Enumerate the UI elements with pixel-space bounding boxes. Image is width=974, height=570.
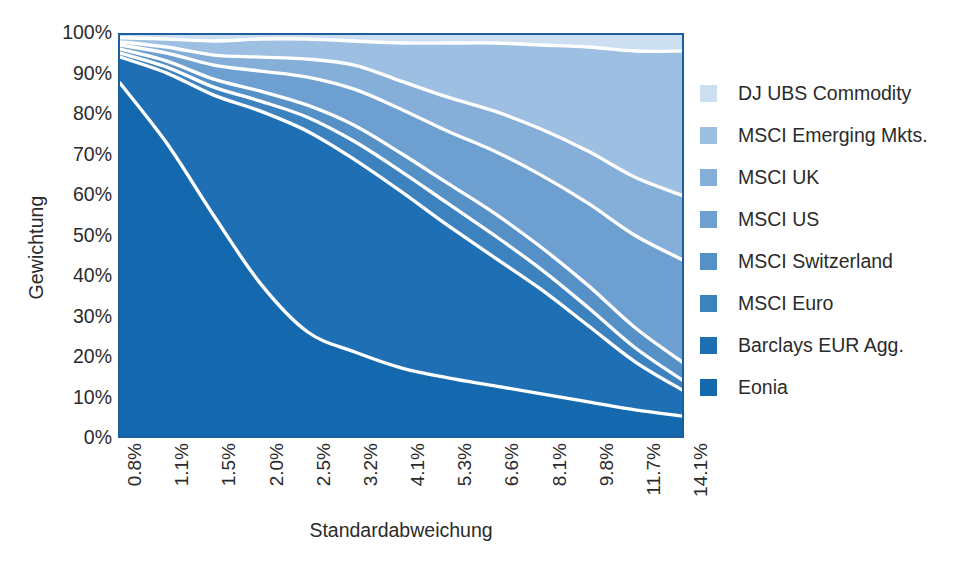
legend-swatch-icon (700, 337, 717, 354)
y-axis-tick-label: 40% (73, 266, 112, 286)
y-axis-tick-label: 90% (73, 64, 112, 84)
x-axis-tick-label: 2.5% (314, 443, 333, 486)
legend-item: DJ UBS Commodity (700, 72, 970, 114)
x-axis-title: Standardabweichung (118, 519, 684, 542)
x-axis-tick-label: 11.7% (644, 443, 663, 495)
legend-label: MSCI Switzerland (738, 250, 893, 273)
legend-item: MSCI Euro (700, 282, 970, 324)
legend-swatch-icon (700, 85, 717, 102)
x-axis-tick-label: 0.8% (125, 443, 144, 486)
x-axis-tick-label: 9.8% (597, 443, 616, 486)
legend-label: Barclays EUR Agg. (738, 334, 904, 357)
legend-item: MSCI UK (700, 156, 970, 198)
legend-swatch-icon (700, 211, 717, 228)
x-axis-tick-labels: 0.8%1.1%1.5%2.0%2.5%3.2%4.1%5.3%6.6%8.1%… (118, 443, 684, 513)
x-axis-tick-label: 6.6% (502, 443, 521, 486)
legend-swatch-icon (700, 295, 717, 312)
x-axis-tick-label: 1.5% (219, 443, 238, 486)
legend-swatch-icon (700, 169, 717, 186)
y-axis-tick-label: 80% (73, 104, 112, 124)
legend-item: Barclays EUR Agg. (700, 324, 970, 366)
plot-area (118, 33, 684, 438)
legend-label: Eonia (738, 376, 788, 399)
legend-label: MSCI UK (738, 166, 819, 189)
legend-swatch-icon (700, 253, 717, 270)
y-axis-tick-labels: 0%10%20%30%40%50%60%70%80%90%100% (36, 28, 112, 438)
legend-item: MSCI Emerging Mkts. (700, 114, 970, 156)
x-axis-tick-label: 8.1% (550, 443, 569, 486)
legend-item: MSCI Switzerland (700, 240, 970, 282)
y-axis-tick-label: 20% (73, 347, 112, 367)
legend-label: MSCI US (738, 208, 819, 231)
legend-label: DJ UBS Commodity (738, 82, 911, 105)
x-axis-tick-label: 5.3% (455, 443, 474, 486)
x-axis-tick-label: 2.0% (267, 443, 286, 486)
legend: DJ UBS CommodityMSCI Emerging Mkts.MSCI … (700, 72, 970, 408)
legend-item: Eonia (700, 366, 970, 408)
legend-label: MSCI Emerging Mkts. (738, 124, 928, 147)
y-axis-tick-label: 70% (73, 145, 112, 165)
legend-label: MSCI Euro (738, 292, 833, 315)
y-axis-tick-label: 0% (84, 428, 112, 448)
x-axis-tick-label: 3.2% (361, 443, 380, 486)
y-axis-tick-label: 60% (73, 185, 112, 205)
legend-swatch-icon (700, 379, 717, 396)
plot-svg (120, 35, 682, 436)
y-axis-tick-label: 100% (62, 23, 112, 43)
y-axis-tick-label: 30% (73, 307, 112, 327)
y-axis-tick-label: 50% (73, 226, 112, 246)
legend-item: MSCI US (700, 198, 970, 240)
stacked-area-chart: Gewichtung 0%10%20%30%40%50%60%70%80%90%… (0, 0, 974, 570)
legend-swatch-icon (700, 127, 717, 144)
y-axis-tick-label: 10% (73, 388, 112, 408)
x-axis-tick-label: 4.1% (408, 443, 427, 486)
x-axis-tick-label: 14.1% (691, 443, 710, 497)
x-axis-tick-label: 1.1% (172, 443, 191, 486)
